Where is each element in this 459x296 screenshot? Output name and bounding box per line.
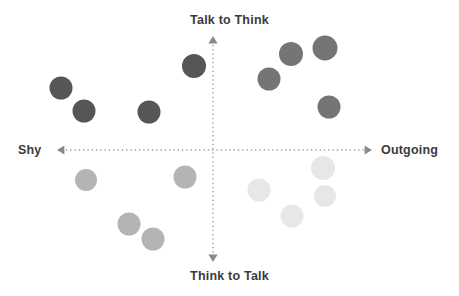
data-point-outgoing-talk-to-think (279, 42, 303, 66)
arrowhead-up (208, 36, 217, 43)
arrowhead-right (365, 145, 372, 154)
data-point-shy-think-to-talk (75, 169, 97, 191)
axes-group (57, 36, 372, 262)
data-point-shy-talk-to-think (50, 77, 73, 100)
data-point-shy-think-to-talk (118, 213, 141, 236)
data-point-outgoing-think-to-talk (248, 179, 271, 202)
axis-label-talk-to-think: Talk to Think (0, 14, 459, 27)
data-point-outgoing-talk-to-think (258, 68, 281, 91)
personality-quadrant-chart: Talk to Think Think to Talk Shy Outgoing (0, 0, 459, 296)
data-point-shy-think-to-talk (174, 166, 197, 189)
data-point-shy-talk-to-think (73, 100, 96, 123)
data-point-outgoing-talk-to-think (313, 36, 338, 61)
axis-label-think-to-talk: Think to Talk (0, 270, 459, 283)
data-points-group (50, 36, 341, 251)
arrowhead-left (57, 145, 64, 154)
data-point-outgoing-think-to-talk (311, 156, 335, 180)
data-point-shy-think-to-talk (142, 228, 165, 251)
axis-label-outgoing: Outgoing (381, 144, 438, 157)
arrowhead-down (208, 255, 217, 262)
axis-label-shy: Shy (18, 144, 42, 157)
data-point-shy-talk-to-think (182, 54, 206, 78)
data-point-outgoing-think-to-talk (281, 205, 304, 228)
data-point-shy-talk-to-think (138, 101, 161, 124)
data-point-outgoing-think-to-talk (314, 185, 336, 207)
data-point-outgoing-talk-to-think (318, 96, 341, 119)
